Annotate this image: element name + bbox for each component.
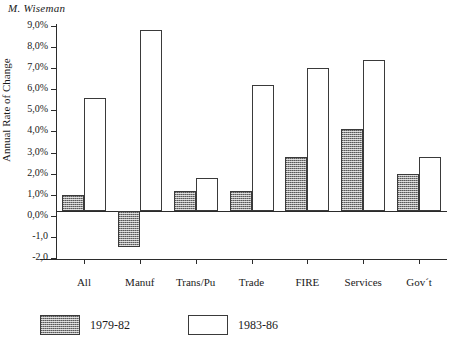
bar-all-1983-86	[84, 98, 106, 211]
chart-legend: 1979-82 1983-86	[40, 310, 278, 340]
y-axis-tick-label: 3,0%	[27, 146, 48, 157]
x-axis-tick-label: Services	[345, 276, 382, 288]
bar-fire-1979-82	[285, 157, 307, 211]
legend-swatch-1983-86	[188, 315, 228, 335]
legend-swatch-1979-82	[40, 315, 80, 335]
x-axis-line	[40, 259, 447, 260]
y-axis-tick-label: 1,0%	[27, 188, 48, 199]
x-axis-tick-mark	[363, 259, 364, 264]
bar-trade-1983-86	[252, 85, 274, 211]
bar-services-1979-82	[341, 129, 363, 211]
x-axis-tick-label: All	[77, 276, 91, 288]
y-axis-tick-label: 4,0%	[27, 124, 48, 135]
x-axis-tick-mark	[84, 259, 85, 264]
bar-gov-t-1983-86	[419, 157, 441, 211]
y-axis-tick-label: 5,0%	[27, 103, 48, 114]
plot-area	[56, 26, 447, 258]
bar-trans-pu-1979-82	[174, 191, 196, 211]
bar-services-1983-86	[363, 60, 385, 211]
x-axis-tick-label: Trans/Pu	[176, 276, 215, 288]
x-axis-tick-mark	[307, 259, 308, 264]
x-axis-tick-label: Gov´t	[406, 276, 432, 288]
x-axis-tick-mark	[252, 259, 253, 264]
x-axis-tick-mark	[419, 259, 420, 264]
y-axis-tick-label: 0,0%	[27, 209, 48, 220]
x-axis-tick-label: Trade	[239, 276, 264, 288]
y-axis-tick-label: 6,0%	[27, 82, 48, 93]
bar-gov-t-1979-82	[397, 174, 419, 211]
x-axis-tick-label: FIRE	[295, 276, 319, 288]
legend-label-1979-82: 1979-82	[90, 318, 130, 333]
legend-entry-1979-82: 1979-82	[40, 315, 130, 335]
bar-trade-1979-82	[230, 191, 252, 211]
legend-label-1983-86: 1983-86	[238, 318, 278, 333]
y-axis-title: Annual Rate of Change	[0, 12, 12, 162]
bar-trans-pu-1983-86	[196, 178, 218, 211]
y-axis-tick-label: -2,0	[32, 251, 48, 262]
bar-manuf-1979-82	[118, 211, 140, 247]
bar-all-1979-82	[62, 195, 84, 211]
y-axis-tick-label: 8,0%	[27, 40, 48, 51]
y-axis-tick-label: 9,0%	[27, 19, 48, 30]
x-axis-tick-label: Manuf	[125, 276, 154, 288]
running-head: M. Wiseman	[8, 2, 65, 14]
y-axis-tick-mark	[51, 258, 56, 259]
bar-manuf-1983-86	[140, 30, 162, 211]
y-axis-tick-label: 7,0%	[27, 61, 48, 72]
legend-entry-1983-86: 1983-86	[188, 315, 278, 335]
bar-fire-1983-86	[307, 68, 329, 211]
x-axis-tick-mark	[140, 259, 141, 264]
y-axis-tick-label: 2,0%	[27, 167, 48, 178]
x-axis-tick-mark	[196, 259, 197, 264]
y-axis-tick-label: -1,0	[32, 230, 48, 241]
